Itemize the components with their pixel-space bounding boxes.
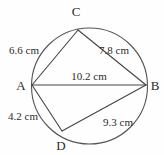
circle-with-inscribed-quadrilateral: C A B D 6.6 cm 7.8 cm 10.2 cm 4.2 cm 9.3… [0, 0, 164, 155]
vertex-label-c: C [72, 4, 81, 19]
vertex-label-d: D [56, 138, 65, 153]
measurement-label-ad: 4.2 cm [8, 110, 38, 122]
vertex-label-b: B [151, 78, 160, 93]
segment-ad-line [32, 85, 62, 131]
measurement-label-ab: 10.2 cm [71, 70, 107, 82]
measurement-label-db: 9.3 cm [103, 116, 133, 128]
measurement-label-ac: 6.6 cm [9, 44, 39, 56]
geometry-diagram: C A B D 6.6 cm 7.8 cm 10.2 cm 4.2 cm 9.3… [0, 0, 164, 155]
vertex-label-a: A [16, 78, 26, 93]
measurement-label-cb: 7.8 cm [99, 44, 129, 56]
